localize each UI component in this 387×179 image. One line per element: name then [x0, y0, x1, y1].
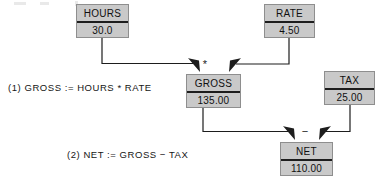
node-hours-value: 30.0	[77, 23, 128, 37]
node-net-name: NET	[281, 143, 332, 161]
node-rate-value: 4.50	[265, 23, 314, 37]
caption-equation-2: (2) NET := GROSS − TAX	[67, 149, 188, 160]
node-net-value: 110.00	[281, 161, 332, 175]
node-hours-name: HOURS	[77, 5, 128, 23]
operator-minus: −	[298, 126, 312, 137]
node-tax[interactable]: TAX 25.00	[324, 71, 375, 105]
operator-multiply: *	[198, 59, 212, 70]
node-rate-name: RATE	[265, 5, 314, 23]
node-gross-value: 135.00	[187, 93, 240, 107]
node-hours[interactable]: HOURS 30.0	[76, 4, 129, 38]
node-rate[interactable]: RATE 4.50	[264, 4, 315, 38]
node-net[interactable]: NET 110.00	[280, 142, 333, 176]
node-gross[interactable]: GROSS 135.00	[186, 74, 241, 108]
caption-equation-1: (1) GROSS := HOURS * RATE	[8, 82, 152, 93]
node-tax-value: 25.00	[325, 90, 374, 104]
node-gross-name: GROSS	[187, 75, 240, 93]
node-tax-name: TAX	[325, 72, 374, 90]
dataflow-diagram: * − HOURS 30.0 RATE 4.50 GROSS 135.00 TA…	[0, 0, 387, 179]
